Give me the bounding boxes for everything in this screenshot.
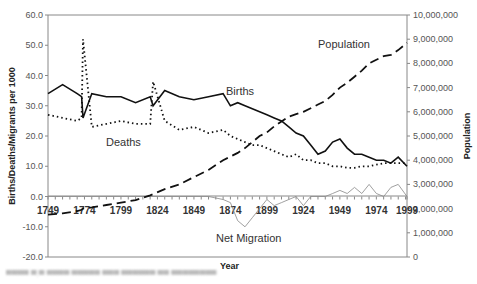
x-tick-label: 1899: [256, 205, 279, 216]
left-tick-label: 10.0: [25, 161, 43, 171]
plot-frame: [48, 15, 407, 257]
left-tick-label: 40.0: [25, 71, 43, 81]
right-axis-ticks: 10,000,0009,000,0008,000,0007,000,0006,0…: [407, 10, 458, 262]
left-tick-label: 50.0: [25, 40, 43, 50]
left-tick-label: -10.0: [22, 222, 43, 232]
left-tick-label: 20.0: [25, 131, 43, 141]
x-tick-label: 1874: [219, 205, 242, 216]
population-annotation: Population: [318, 38, 370, 50]
x-tick-label: 1949: [329, 205, 352, 216]
right-tick-label: 8,000,000: [413, 58, 453, 68]
right-tick-label: 6,000,000: [413, 107, 453, 117]
series-group: [48, 39, 407, 227]
right-axis-title: Population: [462, 113, 472, 160]
right-tick-label: 10,000,000: [413, 10, 458, 20]
x-tick-label: 1849: [183, 205, 206, 216]
x-tick-label: 1999: [396, 205, 419, 216]
deaths-line: [48, 39, 407, 168]
left-axis-ticks: 60.050.040.030.020.010.00.0-10.0-20.0: [22, 10, 48, 262]
left-tick-label: 60.0: [25, 10, 43, 20]
right-tick-label: 9,000,000: [413, 34, 453, 44]
deaths-annotation: Deaths: [106, 136, 141, 148]
left-axis-title: Births/Deaths/Migrants per 1000: [7, 67, 17, 205]
right-tick-label: 0: [413, 252, 418, 262]
x-axis-ticks: 1749177417991824184918741899192419491974…: [37, 197, 419, 216]
right-tick-label: 1,000,000: [413, 228, 453, 238]
right-tick-label: 4,000,000: [413, 155, 453, 165]
migration-annotation: Net Migration: [216, 232, 281, 244]
right-tick-label: 7,000,000: [413, 83, 453, 93]
births-annotation: Births: [226, 85, 255, 97]
right-tick-label: 2,000,000: [413, 204, 453, 214]
left-tick-label: 30.0: [25, 101, 43, 111]
x-tick-label: 1824: [146, 205, 169, 216]
left-tick-label: 0.0: [30, 192, 43, 202]
right-tick-label: 3,000,000: [413, 179, 453, 189]
x-axis-title: Year: [220, 261, 240, 271]
x-tick-label: 1924: [292, 205, 315, 216]
x-tick-label: 1974: [365, 205, 388, 216]
chart-canvas: 60.050.040.030.020.010.00.0-10.0-20.0 10…: [0, 0, 477, 284]
figure-caption: ▀▀▀▀ ▀.▀ ▀▀▀▀ ▀▀▀▀▀ ▀▀▀ ▀▀▀▀▀▀ ▀▀ ▀▀▀▀▀▀…: [6, 270, 217, 279]
right-tick-label: 5,000,000: [413, 131, 453, 141]
x-tick-label: 1799: [110, 205, 133, 216]
left-tick-label: -20.0: [22, 252, 43, 262]
x-tick-label: 1774: [73, 205, 96, 216]
